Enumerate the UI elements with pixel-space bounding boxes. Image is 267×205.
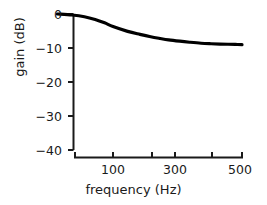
xtick-label-100: 100 bbox=[101, 162, 125, 177]
x-axis-label: frequency (Hz) bbox=[0, 182, 267, 197]
xtick-label-300: 300 bbox=[163, 162, 187, 177]
xtick-label-500: 500 bbox=[228, 162, 252, 177]
chart-figure: 0 −10 −20 −30 −40 100 300 500 frequency … bbox=[0, 0, 267, 205]
ytick-label-minus40: −40 bbox=[18, 143, 62, 158]
ytick-label-minus30: −30 bbox=[18, 109, 62, 124]
gain-response-curve bbox=[57, 14, 242, 45]
plot-area bbox=[0, 0, 267, 205]
y-axis-label-wrapper: gain (dB) bbox=[10, 0, 30, 107]
y-axis-label: gain (dB) bbox=[10, 0, 30, 107]
